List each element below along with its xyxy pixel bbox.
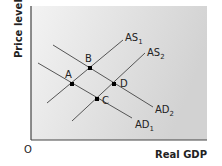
point-b [88,66,92,70]
origin-label: O [24,144,32,155]
y-axis-label: Price level [13,0,24,58]
point-c [95,97,99,101]
point-d [112,82,116,86]
point-a [70,82,74,86]
x-axis-label: Real GDP [155,149,207,160]
as-ad-diagram: AS1AS2AD1AD2 ABCD Price level Real GDP O [0,0,222,166]
point-label-b: B [85,53,92,64]
point-label-a: A [65,69,72,80]
point-label-d: D [120,78,128,89]
plot-background [31,6,207,140]
point-label-c: C [102,95,109,106]
